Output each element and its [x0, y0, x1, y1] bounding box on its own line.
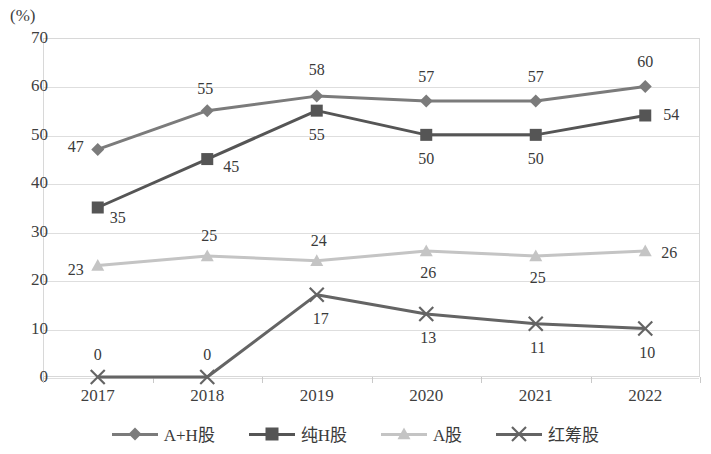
data-point-label: 10: [639, 345, 655, 361]
data-point-marker: [639, 80, 652, 93]
data-point-marker: [420, 129, 432, 141]
legend-marker-glyph: [496, 425, 542, 443]
legend-item[interactable]: A股: [381, 421, 462, 446]
data-point-marker: [265, 427, 278, 440]
chart-legend: A+H股纯H股A股红筹股: [0, 421, 711, 446]
data-point-label: 60: [637, 54, 653, 70]
legend-marker-glyph: [381, 425, 427, 443]
data-point-label: 50: [418, 151, 434, 167]
series-line: [98, 295, 646, 377]
data-point-label: 35: [110, 210, 126, 226]
data-point-label: 55: [197, 81, 213, 97]
data-point-label: 54: [663, 107, 679, 123]
data-point-label: 26: [661, 245, 677, 261]
data-point-marker: [311, 105, 323, 117]
data-point-label: 47: [68, 139, 84, 155]
data-point-label: 45: [223, 159, 239, 175]
legend-marker-x-icon: [496, 425, 542, 443]
legend-marker-square-icon: [249, 425, 295, 443]
data-point-label: 23: [68, 262, 84, 278]
legend-label: A+H股: [164, 421, 215, 446]
legend-label: A股: [433, 421, 462, 446]
data-point-marker: [310, 90, 323, 103]
data-point-label: 24: [311, 233, 327, 249]
data-point-marker: [530, 129, 542, 141]
legend-item[interactable]: 纯H股: [249, 421, 347, 446]
data-point-marker: [201, 153, 213, 165]
legend-label: 纯H股: [301, 421, 347, 446]
series-line: [98, 86, 646, 149]
legend-marker-diamond-icon: [112, 425, 158, 443]
data-point-label: 58: [309, 62, 325, 78]
series-layer: [0, 0, 711, 454]
legend-label: 红筹股: [548, 421, 599, 446]
data-point-label: 57: [528, 69, 544, 85]
data-point-marker: [529, 94, 542, 107]
data-point-label: 26: [420, 265, 436, 281]
data-point-marker: [128, 427, 141, 440]
series-line: [98, 111, 646, 208]
data-point-marker: [398, 427, 411, 439]
data-point-label: 0: [203, 347, 211, 363]
data-point-label: 0: [94, 347, 102, 363]
series-x: [91, 288, 653, 384]
data-point-label: 17: [313, 311, 329, 327]
data-point-label: 25: [530, 270, 546, 286]
data-point-marker: [92, 202, 104, 214]
data-point-marker: [512, 427, 526, 441]
data-point-label: 11: [530, 340, 545, 356]
data-point-marker: [91, 143, 104, 156]
data-point-label: 25: [201, 228, 217, 244]
series-line: [98, 251, 646, 266]
data-point-label: 13: [420, 330, 436, 346]
data-point-marker: [639, 109, 651, 121]
series-diamond: [91, 80, 652, 156]
legend-item[interactable]: A+H股: [112, 421, 215, 446]
legend-marker-triangle-icon: [381, 425, 427, 443]
data-point-label: 57: [418, 69, 434, 85]
legend-marker-glyph: [249, 425, 295, 443]
data-point-label: 50: [528, 151, 544, 167]
legend-item[interactable]: 红筹股: [496, 421, 599, 446]
legend-marker-glyph: [112, 425, 158, 443]
line-chart: (%) 706050403020100 20172018201920202021…: [0, 0, 711, 454]
series-triangle: [91, 245, 652, 271]
data-point-label: 55: [309, 127, 325, 143]
data-point-marker: [420, 94, 433, 107]
data-point-marker: [201, 104, 214, 117]
